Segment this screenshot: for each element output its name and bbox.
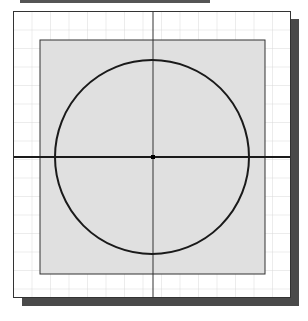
drawing-canvas (0, 0, 308, 321)
center-point (151, 155, 155, 159)
